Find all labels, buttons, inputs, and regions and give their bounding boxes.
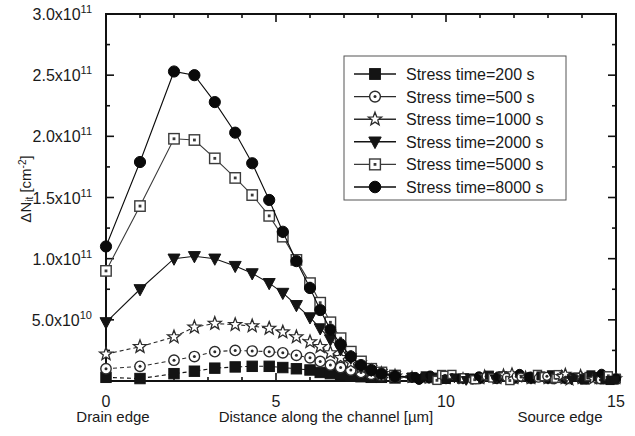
data-point-filled-circle [264, 194, 275, 205]
data-point-open-square [173, 137, 176, 140]
data-point-filled-square [305, 365, 315, 375]
data-point-open-circle [281, 351, 284, 354]
data-point-filled-triangle-down [100, 318, 112, 329]
legend-label: Stress time=5000 s [406, 156, 543, 173]
data-point-filled-triangle-down [229, 261, 241, 272]
data-point-open-star [276, 325, 289, 337]
data-point-filled-square [291, 364, 301, 374]
data-point-filled-triangle-down [277, 288, 289, 299]
data-point-filled-circle [247, 158, 258, 169]
data-point-filled-square [210, 363, 220, 373]
legend-label: Stress time=1000 s [406, 111, 543, 128]
y-tick-labels: 5.0x10101.0x10111.5x10112.0x10112.5x1011… [32, 3, 92, 329]
data-point-filled-triangle-down [246, 269, 258, 280]
source-edge-label: Source edge [495, 408, 625, 425]
data-point-open-square [508, 379, 511, 382]
data-point-open-star [188, 320, 201, 332]
data-point-open-circle [329, 364, 332, 367]
data-point-filled-circle [189, 70, 200, 81]
data-point-filled-circle [366, 364, 377, 375]
legend-label: Stress time=2000 s [406, 134, 543, 151]
y-axis-title-symbol: ΔN [17, 202, 34, 223]
data-point-open-square [251, 194, 254, 197]
data-point-filled-triangle-down [168, 254, 180, 265]
data-point-filled-circle [168, 66, 179, 77]
data-point-filled-circle [389, 371, 400, 382]
data-point-open-circle [339, 366, 342, 369]
data-point-filled-square [135, 373, 145, 383]
y-tick-label: 3.0x1011 [33, 3, 92, 23]
data-point-filled-circle [291, 256, 302, 267]
data-point-open-square [105, 270, 108, 273]
data-point-filled-square [230, 362, 240, 372]
data-point-open-circle [251, 350, 254, 353]
y-tick-label: 1.5x1011 [33, 187, 92, 207]
data-point-filled-square [278, 362, 288, 372]
data-point-open-square [139, 205, 142, 208]
data-point-open-circle [268, 350, 271, 353]
y-tick-label: 2.0x1011 [33, 125, 92, 145]
data-point-open-circle [309, 356, 312, 359]
data-point-open-square [319, 301, 322, 304]
y-axis-title-unit-exponent: -2 [17, 160, 28, 169]
y-tick-label: 1.0x1011 [33, 248, 92, 268]
legend-label: Stress time=8000 s [406, 179, 543, 196]
x-axis-title: Distance along the channel [µm] [196, 408, 456, 425]
data-point-open-circle [105, 367, 108, 370]
data-point-filled-circle [355, 359, 366, 370]
data-point-filled-square [315, 367, 325, 377]
data-point-filled-circle [304, 282, 315, 293]
data-point-open-circle [545, 375, 548, 378]
data-point-filled-triangle-down [134, 285, 146, 296]
data-point-filled-square [370, 69, 381, 80]
data-point-open-circle [374, 95, 377, 98]
y-tick-label: 5.0x1010 [32, 309, 92, 329]
data-point-open-star [134, 340, 147, 352]
data-point-open-circle [295, 354, 298, 357]
data-point-filled-circle [277, 226, 288, 237]
plot-canvas: 5.0x10101.0x10111.5x10112.0x10112.5x1011… [0, 0, 635, 436]
data-point-open-star [246, 319, 259, 331]
data-point-open-circle [139, 365, 142, 368]
noise-band-group [407, 368, 619, 385]
data-point-open-square [193, 139, 196, 142]
figure-chart: 5.0x10101.0x10111.5x10112.0x10112.5x1011… [0, 0, 635, 436]
data-point-open-star [229, 318, 242, 330]
data-point-filled-circle [134, 156, 145, 167]
legend-box: Stress time=200 sStress time=500 sStress… [344, 56, 566, 200]
y-axis-title: ΔNit [cm-2] [17, 119, 35, 259]
data-point-filled-circle [369, 181, 381, 193]
data-point-filled-circle [100, 241, 111, 252]
data-point-open-circle [193, 355, 196, 358]
data-point-filled-triangle-down [290, 301, 302, 312]
data-point-filled-circle [345, 351, 356, 362]
drain-edge-label: Drain edge [48, 408, 178, 425]
data-point-filled-square [189, 366, 199, 376]
data-point-open-circle [173, 359, 176, 362]
data-point-open-circle [213, 350, 216, 353]
data-point-filled-circle [209, 96, 220, 107]
data-point-open-square [234, 177, 237, 180]
data-point-open-square [374, 163, 377, 166]
data-point-filled-triangle-down [263, 279, 275, 290]
data-point-open-star [168, 330, 181, 342]
data-point-filled-square [247, 361, 257, 371]
legend-label: Stress time=500 s [406, 89, 535, 106]
data-point-open-square [329, 321, 332, 324]
data-point-open-square [436, 379, 439, 382]
legend-label: Stress time=200 s [406, 66, 535, 83]
data-point-open-circle [349, 368, 352, 371]
data-point-open-star [263, 322, 276, 334]
data-point-open-star [208, 317, 221, 329]
data-point-open-square [268, 214, 271, 217]
data-point-filled-circle [315, 304, 326, 315]
data-point-open-circle [234, 349, 237, 352]
y-axis-title-unit-open: [cm [17, 168, 34, 196]
data-point-filled-circle [230, 127, 241, 138]
data-point-open-square [213, 157, 216, 160]
y-axis-title-subscript: it [24, 197, 35, 202]
data-point-filled-square [264, 361, 274, 371]
data-point-filled-circle [376, 368, 387, 379]
y-tick-label: 2.5x1011 [33, 64, 92, 84]
data-point-open-circle [319, 360, 322, 363]
